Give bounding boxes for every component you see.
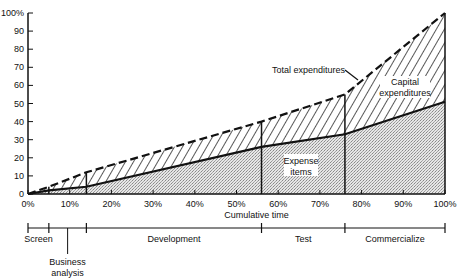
phase-label: Business	[49, 257, 86, 267]
x-tick-label: 20%	[102, 199, 120, 209]
annotation-expense-line1: Expense	[283, 156, 318, 166]
x-tick-label: 60%	[269, 199, 287, 209]
y-tick-label: 60	[14, 80, 24, 90]
y-tick-label: 80	[14, 44, 24, 54]
phase-label: Development	[147, 234, 201, 244]
y-tick-label: 50	[14, 99, 24, 109]
x-tick-label: 70%	[311, 199, 329, 209]
annotation-capital-line1: Capital	[391, 77, 419, 87]
y-tick-label: 10	[14, 171, 24, 181]
phase-label: analysis	[51, 268, 84, 278]
x-tick-label: 30%	[144, 199, 162, 209]
x-tick-label: 80%	[353, 199, 371, 209]
phase-label: Commercialize	[365, 234, 425, 244]
y-tick-label: 70	[14, 62, 24, 72]
x-axis-label: Cumulative time	[224, 210, 289, 220]
annotation-expense-line2: items	[290, 167, 312, 177]
expenditure-chart: 0102030405060708090100%0%10%20%30%40%50%…	[0, 0, 463, 278]
annotation-arrow	[345, 70, 358, 80]
y-tick-label: 90	[14, 26, 24, 36]
y-tick-label: 40	[14, 117, 24, 127]
x-tick-label: 0%	[21, 199, 34, 209]
x-tick-label: 10%	[61, 199, 79, 209]
annotation-total-expenditures: Total expenditures	[272, 65, 346, 75]
x-tick-label: 40%	[186, 199, 204, 209]
y-tick-label: 100%	[1, 8, 24, 18]
annotation-capital-line2: expenditures	[379, 88, 431, 98]
y-tick-label: 20	[14, 153, 24, 163]
y-tick-label: 30	[14, 135, 24, 145]
x-tick-label: 50%	[227, 199, 245, 209]
phase-label: Test	[295, 234, 312, 244]
phase-label: Screen	[24, 234, 53, 244]
y-tick-label: 0	[19, 189, 24, 199]
x-tick-label: 90%	[394, 199, 412, 209]
x-tick-label: 100%	[433, 199, 456, 209]
